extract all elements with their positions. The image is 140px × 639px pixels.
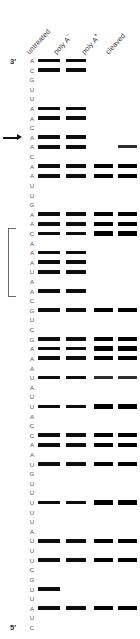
gel-band <box>94 376 113 379</box>
gel-band-row <box>0 287 140 297</box>
gel-band-row <box>0 104 140 114</box>
gel-band <box>38 107 60 111</box>
gel-band-row <box>0 517 140 527</box>
gel-band <box>94 404 113 408</box>
gel-band <box>94 174 113 178</box>
gel-band <box>66 59 86 63</box>
gel-band-row <box>0 267 140 277</box>
gel-band <box>118 231 137 235</box>
gel-band <box>66 443 86 447</box>
gel-band <box>94 558 113 562</box>
gel-band <box>38 68 60 72</box>
gel-band <box>38 443 60 447</box>
gel-band <box>38 174 60 178</box>
gel-band <box>38 308 60 312</box>
gel-band-row <box>0 527 140 537</box>
gel-band-row <box>0 546 140 556</box>
gel-band-row <box>0 210 140 220</box>
gel-band <box>94 462 113 466</box>
lane-header-poly-a-minus: poly A− <box>51 32 74 56</box>
gel-band <box>118 145 137 148</box>
gel-band <box>38 558 60 562</box>
header-superscript: + <box>92 32 99 39</box>
gel-band <box>38 501 60 505</box>
gel-band <box>66 376 86 380</box>
gel-band-row <box>0 354 140 364</box>
gel-band <box>66 606 86 610</box>
gel-band-row <box>0 191 140 201</box>
gel-band <box>94 212 113 216</box>
gel-band <box>118 376 137 379</box>
gel-band-row <box>0 613 140 623</box>
gel-band <box>118 404 137 408</box>
gel-band-row <box>0 469 140 479</box>
gel-band <box>66 433 86 437</box>
gel-band <box>118 308 137 312</box>
gel-band <box>94 164 113 168</box>
gel-band-row <box>0 344 140 354</box>
gel-band-row <box>0 85 140 95</box>
gel-band <box>38 145 60 149</box>
gel-band-row <box>0 219 140 229</box>
gel-band-row <box>0 556 140 566</box>
gel-band <box>118 337 137 341</box>
gel-band <box>38 587 60 591</box>
gel-band-row <box>0 498 140 508</box>
gel-band <box>66 337 86 341</box>
gel-band-row <box>0 412 140 422</box>
gel-band <box>118 222 137 226</box>
gel-band <box>38 135 60 139</box>
gel-band-row <box>0 392 140 402</box>
gel-band-row <box>0 123 140 133</box>
gel-band-row <box>0 575 140 585</box>
gel-band <box>38 405 60 409</box>
gel-band <box>118 212 137 216</box>
gel-band <box>38 376 60 380</box>
gel-band <box>94 337 113 341</box>
gel-band <box>66 347 86 351</box>
gel-band <box>66 539 86 543</box>
gel-band <box>118 346 137 350</box>
gel-band-row <box>0 565 140 575</box>
gel-band <box>118 606 137 610</box>
gel-band <box>94 606 113 610</box>
lane-header-untreated: untreated <box>24 27 52 56</box>
gel-band <box>66 308 86 312</box>
gel-band-row <box>0 479 140 489</box>
gel-band <box>38 116 60 120</box>
gel-band <box>118 174 137 178</box>
gel-band <box>118 558 137 562</box>
gel-band <box>118 462 137 466</box>
gel-band <box>38 462 60 466</box>
gel-band-row <box>0 623 140 633</box>
gel-band <box>66 145 86 149</box>
gel-band <box>66 501 86 505</box>
gel-band-row <box>0 248 140 258</box>
gel-band <box>66 251 86 255</box>
gel-band <box>66 289 86 293</box>
gel-band <box>66 356 86 360</box>
gel-band-row <box>0 335 140 345</box>
gel-band <box>38 222 60 226</box>
gel-band-row <box>0 56 140 66</box>
gel-band <box>38 59 60 63</box>
gel-band-row <box>0 364 140 374</box>
gel-band-row <box>0 258 140 268</box>
gel-band-row <box>0 133 140 143</box>
gel-band-row <box>0 431 140 441</box>
gel-band <box>66 68 86 72</box>
gel-band <box>94 443 113 447</box>
gel-band <box>66 260 86 264</box>
sequencing-gel-figure: untreated poly A− poly A+ cleaved 3′ 5′ … <box>0 0 140 639</box>
gel-band-row <box>0 402 140 412</box>
gel-band-row <box>0 181 140 191</box>
gel-band-row <box>0 277 140 287</box>
gel-band <box>66 558 86 562</box>
gel-lanes <box>0 56 140 633</box>
gel-band <box>118 356 137 360</box>
gel-band-row <box>0 594 140 604</box>
gel-band <box>66 232 86 236</box>
gel-band-row <box>0 315 140 325</box>
gel-band <box>38 289 60 293</box>
gel-band-row <box>0 306 140 316</box>
